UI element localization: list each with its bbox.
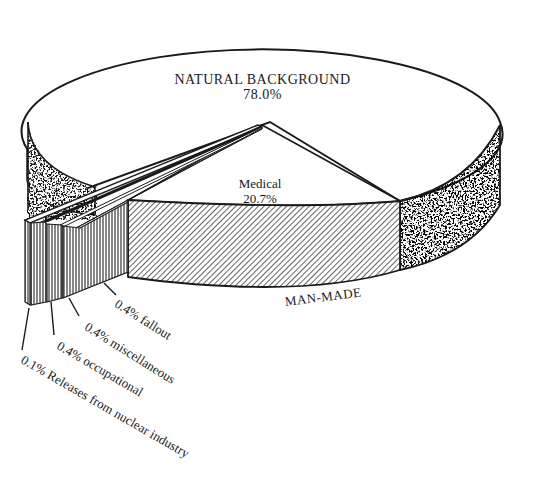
- slice-medical-side[interactable]: [128, 200, 400, 287]
- natural-background-pct: 78.0%: [170, 87, 355, 102]
- natural-background-name: NATURAL BACKGROUND: [170, 72, 355, 87]
- slice-occupational-side[interactable]: [31, 222, 46, 305]
- natural-background-label: NATURAL BACKGROUND 78.0%: [170, 72, 355, 102]
- pie-chart: NATURAL BACKGROUND 78.0% Medical 20.7% M…: [0, 0, 535, 483]
- medical-pct: 20.7%: [225, 191, 295, 206]
- medical-name: Medical: [225, 176, 295, 191]
- medical-label: Medical 20.7%: [225, 176, 295, 206]
- slice-miscellaneous-side[interactable]: [47, 224, 62, 302]
- slice-nuclear-side[interactable]: [25, 220, 30, 305]
